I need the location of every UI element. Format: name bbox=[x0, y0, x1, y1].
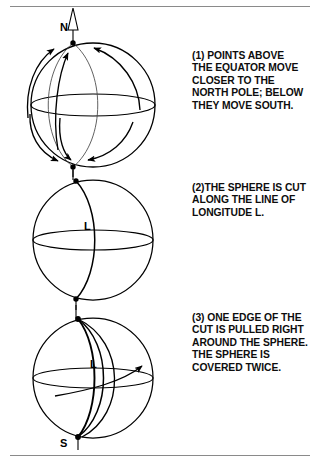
sphere-diagram bbox=[0, 0, 185, 470]
figure-root: N S L L (1) POINTS ABOVE THE EQUATOR MOV… bbox=[0, 0, 317, 470]
caption-step-1: (1) POINTS ABOVE THE EQUATOR MOVE CLOSER… bbox=[192, 50, 314, 112]
polar-axis-group bbox=[68, 8, 78, 43]
sphere-2-longitude-cut-L bbox=[76, 181, 95, 299]
sphere-2-north-pole-dot bbox=[73, 178, 78, 183]
sphere-2-equator bbox=[33, 230, 153, 250]
sphere-3-cut-edge-pulled-b bbox=[78, 319, 115, 437]
sphere-3-group bbox=[33, 305, 153, 450]
north-pole-label: N bbox=[60, 21, 68, 33]
sphere-2-group bbox=[33, 170, 153, 310]
sphere-1-equator bbox=[31, 94, 155, 116]
polar-axis-arrowhead-icon bbox=[68, 8, 78, 30]
sphere-1-north-pole-dot bbox=[70, 40, 75, 45]
longitude-label-sphere-3: L bbox=[90, 358, 97, 370]
sphere-1-flow-arrow-n-center bbox=[56, 53, 68, 150]
sphere-3-cut-edge-original bbox=[78, 319, 95, 437]
caption-step-3: (3) ONE EDGE OF THE CUT IS PULLED RIGHT … bbox=[192, 312, 314, 374]
longitude-label-sphere-2: L bbox=[84, 220, 91, 232]
sphere-1-flow-arrow-se bbox=[88, 122, 133, 160]
caption-step-2: (2)THE SPHERE IS CUT ALONG THE LINE OF L… bbox=[192, 182, 314, 219]
sphere-1-meridian-left bbox=[48, 43, 73, 167]
sphere-1-outline bbox=[31, 43, 155, 167]
sphere-2-outline bbox=[33, 180, 153, 300]
sphere-3-north-pole-dot bbox=[75, 316, 81, 322]
south-pole-label: S bbox=[60, 437, 67, 449]
sphere-1-group bbox=[27, 40, 155, 177]
sphere-1-meridian-right bbox=[73, 43, 98, 167]
